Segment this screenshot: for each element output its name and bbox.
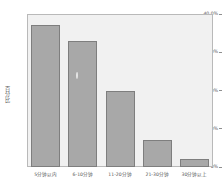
y-axis-tick-mark [219,14,222,15]
bar [180,159,209,167]
x-axis-tick-label: 6-10分钟 [64,170,101,179]
bar [106,91,135,168]
bar [68,41,97,167]
bars-layer [27,14,213,167]
bar-chart: 百分比 40.0%30.0%20.0%10.0%0% 5分钟以内6-10分钟11… [0,0,222,186]
y-axis-tick-mark [219,52,222,53]
x-axis-tick-label: 11-20分钟 [101,170,138,179]
bar [143,140,172,167]
y-axis-tick-mark [219,90,222,91]
y-axis-tick-mark [219,128,222,129]
x-axis-tick-label: 30分钟以上 [176,170,213,179]
y-axis-title: 百分比 [1,72,13,116]
x-axis-tick-label: 21-30分钟 [139,170,176,179]
y-axis-tick-mark [219,167,222,168]
bar [31,25,60,167]
x-axis-tick-label: 5分钟以内 [27,170,64,179]
